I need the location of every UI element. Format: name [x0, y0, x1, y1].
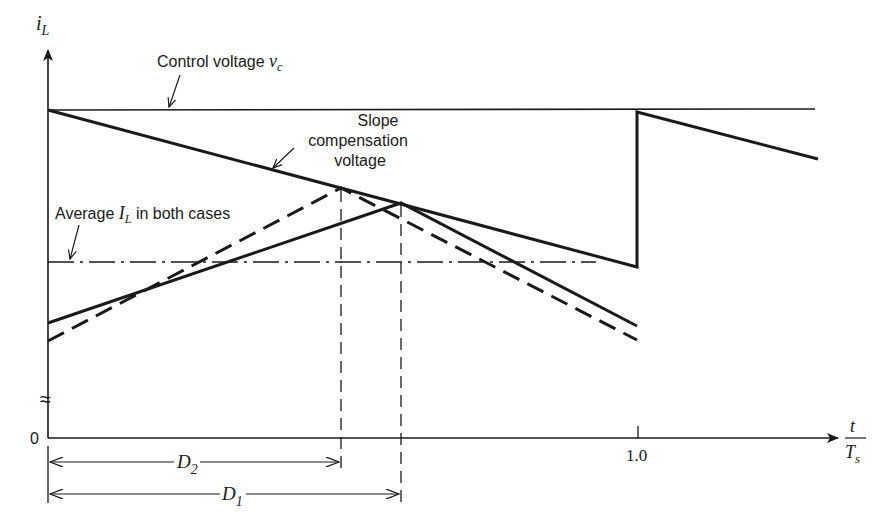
svg-text:voltage: voltage [334, 152, 386, 169]
svg-text:compensation: compensation [308, 132, 408, 149]
axis-break-symbol: ≈ [40, 388, 51, 410]
svg-text:t: t [850, 416, 856, 436]
dimension-d1: D1 [50, 483, 399, 509]
y-axis: iL ≈ 0 [30, 12, 51, 447]
svg-text:Control voltage vc: Control voltage vc [157, 51, 283, 74]
x-axis-label: t Ts [845, 416, 866, 466]
svg-text:Ts: Ts [845, 442, 860, 466]
x-tick-label: 1.0 [626, 446, 647, 465]
current-mode-control-diagram: iL ≈ 0 1.0 t Ts D2 D1 Control v [0, 0, 890, 526]
y-axis-label: iL [36, 12, 50, 38]
annotation-average-current: Average IL in both cases [55, 203, 230, 259]
annotation-slope-compensation: Slope compensation voltage [273, 112, 408, 169]
control-voltage-line [48, 109, 815, 110]
d2-label: D2 [176, 451, 198, 477]
x-axis: 1.0 t Ts [48, 416, 866, 466]
annotation-control-voltage: Control voltage vc [157, 51, 283, 107]
slope-compensation-line [48, 110, 818, 267]
svg-text:Slope: Slope [358, 112, 399, 129]
origin-label: 0 [30, 430, 39, 447]
svg-text:Average IL in both cases: Average IL in both cases [55, 203, 230, 226]
d1-label: D1 [221, 483, 243, 509]
